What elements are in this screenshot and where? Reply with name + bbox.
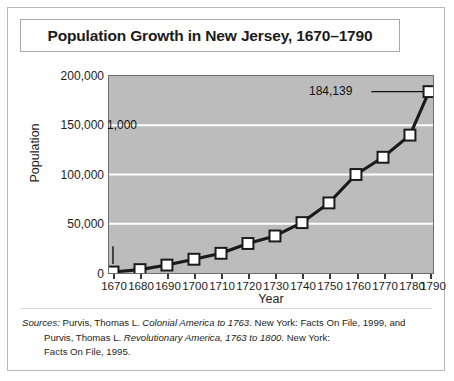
data-line [113, 92, 429, 272]
x-tick-mark-1780 [411, 274, 413, 279]
x-tick-mark-1700 [194, 274, 196, 279]
x-tick-mark-1760 [357, 274, 359, 279]
x-tick-mark-1680 [140, 274, 142, 279]
page-title: Population Growth in New Jersey, 1670–17… [47, 27, 372, 45]
y-tick-label-50000: 50,000 [42, 217, 104, 231]
source-line-3: Facts On File, 1995. [22, 345, 430, 360]
source-line-1: Sources: Purvis, Thomas L. Colonial Amer… [22, 316, 430, 331]
chart-region: Population 200,000 150,000 100,000 50,00… [8, 58, 444, 308]
annotation-last-value: 184,139 [309, 84, 352, 98]
data-point-1730 [270, 231, 281, 242]
x-tick-mark-1730 [275, 274, 277, 279]
source-label: Sources: [22, 317, 60, 328]
x-tick-mark-1720 [248, 274, 250, 279]
x-tick-mark-1740 [302, 274, 304, 279]
source-line1-title: Colonial America to 1763 [142, 317, 249, 328]
x-tick-label-1790: 1790 [413, 280, 453, 292]
data-point-1710 [216, 248, 227, 259]
x-tick-mark-1770 [384, 274, 386, 279]
chart-title-box: Population Growth in New Jersey, 1670–17… [20, 19, 400, 52]
x-axis-label: Year [108, 292, 434, 306]
line-chart-svg [109, 76, 433, 273]
y-tick-label-0: 0 [42, 267, 104, 281]
source-line2-title: Revolutionary America, 1763 to 1800 [124, 332, 282, 343]
data-point-1720 [242, 238, 253, 249]
plot-area: 1,000 184,139 [108, 75, 434, 274]
source-note: Sources: Purvis, Thomas L. Colonial Amer… [22, 316, 430, 360]
data-point-1780 [404, 130, 415, 141]
gridlines [109, 125, 433, 224]
source-divider [20, 308, 432, 309]
source-line1-a: Purvis, Thomas L. [60, 317, 142, 328]
source-line2-a: Purvis, Thomas L. [44, 332, 124, 343]
figure-frame: Population Growth in New Jersey, 1670–17… [7, 7, 445, 371]
source-line-2: Purvis, Thomas L. Revolutionary America,… [22, 331, 430, 346]
x-tick-mark-1690 [167, 274, 169, 279]
data-markers [109, 86, 433, 273]
x-tick-mark-1710 [221, 274, 223, 279]
annotation-first-value: 1,000 [107, 118, 137, 132]
y-tick-label-100000: 100,000 [42, 168, 104, 182]
source-line1-c: . New York: Facts On File, 1999, and [249, 317, 405, 328]
y-tick-label-200000: 200,000 [42, 69, 104, 83]
data-point-1770 [378, 152, 389, 163]
data-point-1690 [161, 260, 172, 271]
data-point-1680 [135, 264, 146, 273]
x-tick-mark-1670 [113, 274, 115, 279]
y-axis-ticks: 200,000 150,000 100,000 50,000 0 [38, 58, 104, 308]
data-point-1740 [297, 217, 308, 228]
data-point-1760 [351, 169, 362, 180]
x-tick-mark-1750 [329, 274, 331, 279]
data-point-1750 [323, 197, 334, 208]
data-point-1700 [189, 254, 200, 265]
y-tick-label-150000: 150,000 [42, 118, 104, 132]
data-point-1790 [424, 86, 433, 97]
x-tick-mark-1790 [430, 274, 432, 279]
data-point-1670 [109, 267, 118, 273]
source-line2-c: . New York: [281, 332, 330, 343]
